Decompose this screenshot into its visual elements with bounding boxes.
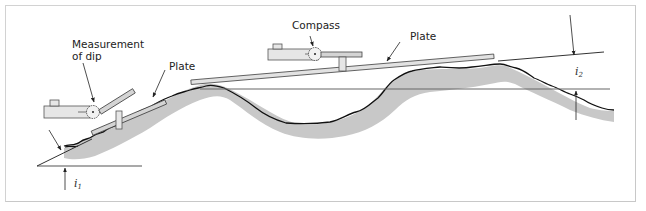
label-measurement-of-dip-line1: Measurement [72,38,144,50]
compass-leader-arrow [310,36,313,46]
dip-line-i2 [498,52,604,61]
dip-i2-upper-arrow [570,15,574,55]
compass-left [44,89,135,132]
plate-large-leader-arrow [387,42,400,61]
plate-small-leader-arrow [153,70,165,97]
measurement-leader-arrow [83,63,94,102]
label-measurement-of-dip-line2: of dip [72,50,102,62]
label-angle-i2: i2 [575,65,584,79]
label-compass: Compass [292,19,340,31]
label-plate-small: Plate [169,60,195,72]
dip-i1-upper-arrow [49,130,61,150]
label-plate-large: Plate [410,30,436,42]
dip-measurement-diagram: Measurement of dip Plate Compass Plate i… [0,0,646,211]
label-angle-i1: i1 [74,177,82,191]
